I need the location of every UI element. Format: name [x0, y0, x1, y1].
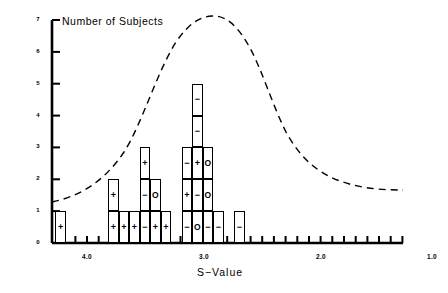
- histogram-bar-outline: [150, 179, 161, 243]
- histogram-bar-outline: [129, 211, 140, 243]
- histogram-bar-outline: [55, 211, 66, 243]
- y-tick-label-4: 4: [30, 112, 46, 118]
- normal-curve-overlay: [52, 16, 403, 202]
- histogram-bar-outline: [192, 84, 203, 243]
- y-tick-label-6: 6: [30, 48, 46, 54]
- histogram-bar-outline: [108, 179, 119, 243]
- histogram-bar-outline: [161, 211, 172, 243]
- y-tick-label-1: 1: [30, 207, 46, 213]
- x-tick-label-4: 4.0: [67, 253, 107, 260]
- histogram-bar-outline: [140, 147, 151, 243]
- chart-axes-svg: [0, 0, 448, 293]
- histogram-chart: Number of Subjects 7 6 5 4 3 2 1 0 4.0 3…: [0, 0, 448, 293]
- x-tick-label-1: 1.0: [417, 253, 447, 260]
- x-tick-label-2: 2.0: [301, 253, 341, 260]
- y-tick-label-3: 3: [30, 143, 46, 149]
- y-tick-label-7: 7: [30, 16, 46, 22]
- y-axis-title-text: Number of Subjects: [62, 15, 163, 27]
- x-axis-title: S−Value: [150, 266, 290, 278]
- y-tick-label-2: 2: [30, 175, 46, 181]
- histogram-bar-outline: [119, 211, 130, 243]
- histogram-bar-outline: [203, 147, 214, 243]
- x-tick-label-3: 3.0: [184, 253, 224, 260]
- y-tick-label-0: 0: [30, 239, 46, 245]
- y-tick-label-5: 5: [30, 80, 46, 86]
- histogram-bar-outline: [182, 147, 193, 243]
- histogram-bar-outline: [234, 211, 245, 243]
- histogram-bar-outline: [213, 211, 224, 243]
- y-axis-title: Number of Subjects: [62, 15, 163, 27]
